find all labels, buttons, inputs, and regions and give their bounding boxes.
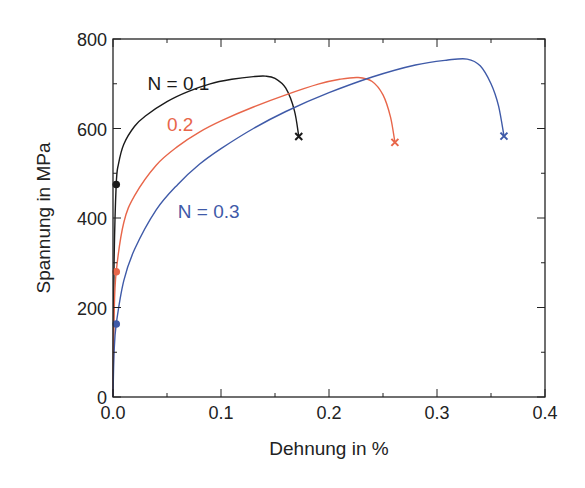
y-tick-label: 0 — [97, 388, 107, 408]
y-axis-label: Spannung in MPa — [33, 142, 54, 293]
stress-strain-chart: 0.00.10.20.30.4 0200400600800 N = 0.10.2… — [0, 0, 585, 488]
plot-lines — [112, 59, 507, 397]
x-tick-labels: 0.00.10.20.30.4 — [100, 403, 557, 423]
series-label: 0.2 — [167, 114, 193, 135]
y-tick-label: 600 — [77, 120, 107, 140]
y-tick-label: 200 — [77, 299, 107, 319]
x-tick-label: 0.4 — [532, 403, 557, 423]
series-label: N = 0.3 — [178, 201, 240, 222]
series-line — [113, 77, 395, 397]
series-label: N = 0.1 — [148, 73, 210, 94]
y-tick-label: 800 — [77, 30, 107, 50]
y-tick-labels: 0200400600800 — [77, 30, 107, 408]
y-tick-label: 400 — [77, 209, 107, 229]
series-line — [113, 59, 504, 397]
series-labels: N = 0.10.2N = 0.3 — [148, 73, 240, 222]
x-tick-label: 0.3 — [424, 403, 449, 423]
x-axis-label: Dehnung in % — [269, 438, 388, 459]
x-tick-label: 0.1 — [208, 403, 233, 423]
x-tick-label: 0.2 — [316, 403, 341, 423]
